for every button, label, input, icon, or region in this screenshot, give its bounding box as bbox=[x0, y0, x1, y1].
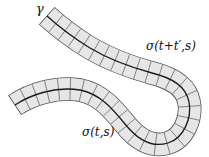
gamma-label: γ bbox=[36, 1, 44, 16]
sigma-t-label: σ(t,s) bbox=[82, 125, 115, 139]
sigma-t-plus-label: σ(t+t′,s) bbox=[146, 39, 196, 53]
flow-diagram: γ σ(t+t′,s) σ(t,s) bbox=[0, 0, 209, 157]
